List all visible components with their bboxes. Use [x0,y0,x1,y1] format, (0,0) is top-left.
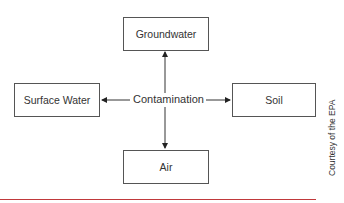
node-groundwater: Groundwater [123,17,209,51]
image-credit: Courtesy of the EPA [327,100,337,176]
center-node-contamination: Contamination [131,93,206,105]
node-label: Surface Water [24,94,91,106]
node-air: Air [123,150,209,184]
node-soil: Soil [232,83,316,117]
node-surface-water: Surface Water [14,83,100,117]
node-label: Soil [265,94,283,106]
bottom-rule [0,199,316,200]
node-label: Air [160,161,173,173]
node-label: Groundwater [136,28,197,40]
